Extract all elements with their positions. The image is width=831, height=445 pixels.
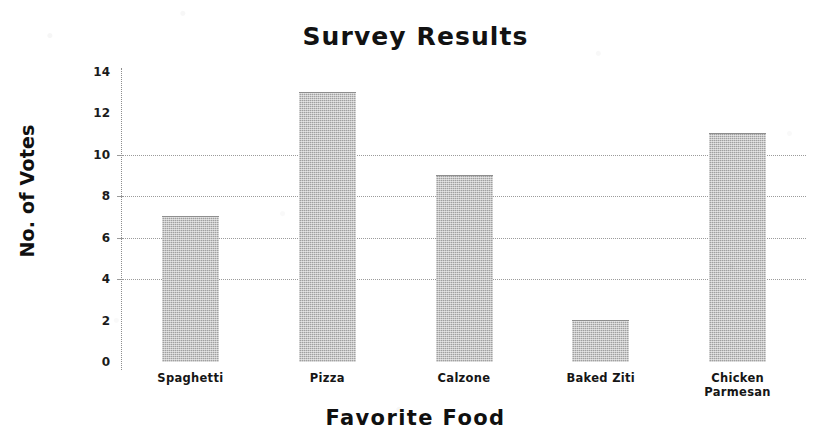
y-axis-tick-label: 2 <box>80 314 110 328</box>
bar-spaghetti <box>162 216 219 362</box>
x-axis-tick-label-line: Baked Ziti <box>531 371 671 385</box>
bar-baked-ziti <box>572 320 629 362</box>
x-axis-tick-label-line: Calzone <box>394 371 534 385</box>
gridline <box>122 155 806 157</box>
y-axis-tick-label: 10 <box>80 148 110 162</box>
y-axis-tick-mark <box>117 238 123 239</box>
y-axis-tick-labels: 02468101214 <box>76 0 110 445</box>
chart-title: Survey Results <box>0 22 831 51</box>
x-axis-tick-label: Spaghetti <box>120 371 260 385</box>
bar-pizza <box>299 92 356 362</box>
y-axis-tick-label: 6 <box>80 231 110 245</box>
y-axis-tick-label: 14 <box>80 65 110 79</box>
bar-calzone <box>436 175 493 362</box>
x-axis-tick-label-line: Chicken <box>668 371 808 385</box>
y-axis-line <box>121 68 123 370</box>
bar-chicken-parmesan <box>709 133 766 362</box>
y-axis-tick-label: 12 <box>80 106 110 120</box>
y-axis-tick-mark <box>117 279 123 280</box>
y-axis-tick-label: 0 <box>80 355 110 369</box>
x-axis-tick-label-line: Pizza <box>257 371 397 385</box>
y-axis-tick-label: 8 <box>80 189 110 203</box>
x-axis-tick-label: ChickenParmesan <box>668 371 808 399</box>
x-axis-tick-label-line: Parmesan <box>668 385 808 399</box>
x-axis-tick-label: Pizza <box>257 371 397 385</box>
x-axis-title: Favorite Food <box>0 406 831 430</box>
y-axis-tick-label: 4 <box>80 272 110 286</box>
y-axis-title: No. of Votes <box>16 116 38 266</box>
x-axis-tick-label-line: Spaghetti <box>120 371 260 385</box>
y-axis-tick-mark <box>117 196 123 197</box>
y-axis-tick-mark <box>117 155 123 156</box>
x-axis-tick-label: Calzone <box>394 371 534 385</box>
plot-area <box>122 72 806 362</box>
x-axis-tick-label: Baked Ziti <box>531 371 671 385</box>
